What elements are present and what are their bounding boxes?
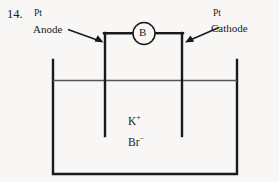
anion-charge: − xyxy=(140,134,145,143)
anode-label: Anode xyxy=(33,24,62,35)
cation-label: K+ xyxy=(128,116,141,128)
question-number: 14. xyxy=(7,8,23,21)
cation-charge: + xyxy=(136,113,141,122)
meter-symbol-label: B xyxy=(139,27,146,38)
anion-label: Br− xyxy=(128,137,144,149)
anode-material-label: Pt xyxy=(34,9,42,19)
cathode-material-label: Pt xyxy=(213,9,221,19)
electrolysis-cell-diagram: 14. Pt Anode Pt Cathode B K+ Br− xyxy=(0,0,279,182)
cathode-label: Cathode xyxy=(211,23,248,34)
beaker-outline xyxy=(53,60,237,174)
anion-symbol: Br xyxy=(128,136,140,148)
anode-pointer-arrow-icon xyxy=(68,30,104,43)
